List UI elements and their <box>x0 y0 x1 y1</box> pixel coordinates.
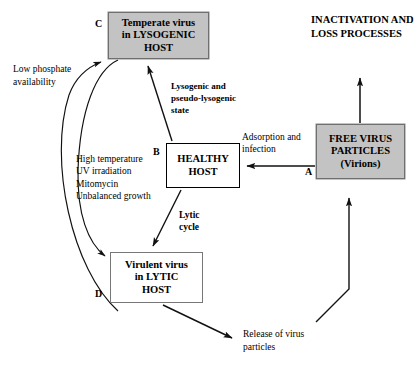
lysogenic-state-line-2: pseudo-lysogenic <box>171 92 243 104</box>
lysogenic-state-line-1: Lysogenic and <box>171 80 243 92</box>
trigger-line-4: Unbalanced growth <box>76 190 172 202</box>
lytic-cycle-line-1: Lytic <box>179 209 221 221</box>
node-b-line2: HOST <box>169 166 237 178</box>
node-a-line3: (Virions) <box>319 158 402 170</box>
lytic-cycle-line-2: cycle <box>179 221 221 233</box>
trigger-line-1: High temperature <box>76 153 172 165</box>
arrow-release-to-free-virus <box>316 198 349 322</box>
edge-label-release-of-virus-particles: Release of virus particles <box>243 328 335 354</box>
trigger-line-3: Mitomycin <box>76 178 172 190</box>
node-a-line2: PARTICLES <box>319 145 402 157</box>
node-label-c: C <box>95 18 102 29</box>
arrow-healthy-host-to-lysogenic <box>148 66 172 141</box>
edge-label-lysogenic-state: Lysogenic and pseudo-lysogenic state <box>171 80 243 116</box>
node-free-virus-particles[interactable]: FREE VIRUS PARTICLES (Virions) <box>316 124 405 179</box>
edge-label-induction-triggers: High temperature UV irradiation Mitomyci… <box>76 153 172 202</box>
node-d-line2: in LYTIC <box>113 271 200 283</box>
lysogenic-state-line-3: state <box>171 104 243 116</box>
node-label-a: A <box>305 166 312 177</box>
node-c-line3: HOST <box>111 42 206 54</box>
node-healthy-host[interactable]: HEALTHY HOST <box>166 143 240 188</box>
node-virulent-virus-lytic-host[interactable]: Virulent virus in LYTIC HOST <box>110 252 203 303</box>
node-d-line1: Virulent virus <box>113 259 200 271</box>
node-c-line1: Temperate virus <box>111 17 206 29</box>
node-label-d: D <box>95 288 102 299</box>
arrow-lytic-to-release <box>163 305 232 338</box>
node-c-line2: in LYSOGENIC <box>111 29 206 41</box>
node-a-line1: FREE VIRUS <box>319 133 402 145</box>
heading-inactivation-and-loss-processes: INACTIVATION AND LOSS PROCESSES <box>311 13 416 41</box>
diagram-canvas: Temperate virus in LYSOGENIC HOST C HEAL… <box>0 0 417 377</box>
node-d-line3: HOST <box>113 284 200 296</box>
trigger-line-2: UV irradiation <box>76 165 172 177</box>
node-b-line1: HEALTHY <box>169 153 237 165</box>
edge-label-lytic-cycle: Lytic cycle <box>179 209 221 234</box>
node-temperate-virus-lysogenic-host[interactable]: Temperate virus in LYSOGENIC HOST <box>108 12 209 59</box>
edge-label-low-phosphate-availability: Low phosphate availability <box>13 63 83 89</box>
edge-label-adsorption-and-infection: Adsorption and infection <box>242 131 314 156</box>
